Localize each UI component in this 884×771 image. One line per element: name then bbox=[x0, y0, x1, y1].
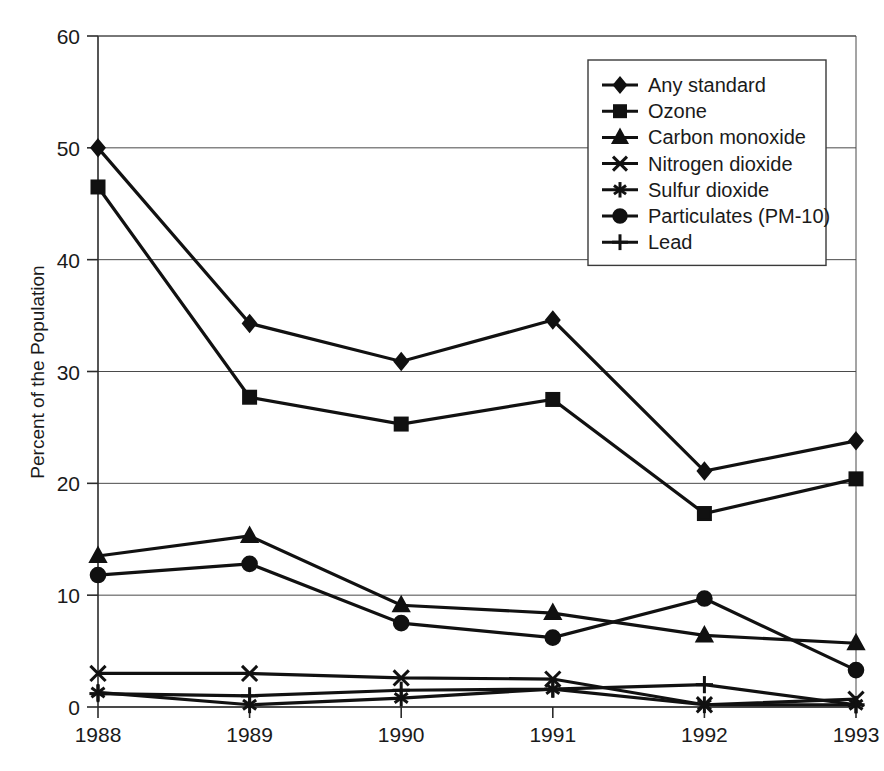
y-axis-title: Percent of the Population bbox=[27, 265, 48, 478]
y-tick-label: 50 bbox=[57, 137, 80, 160]
chart-canvas: 0102030405060 198819891990199119921993 P… bbox=[0, 0, 884, 771]
marker-square bbox=[395, 418, 408, 431]
marker-circle bbox=[394, 616, 408, 630]
series-path bbox=[98, 564, 856, 670]
y-tick-label: 40 bbox=[57, 249, 80, 272]
x-tick-label: 1989 bbox=[226, 723, 273, 746]
series-particulates-pm-10 bbox=[91, 557, 863, 678]
y-axis-ticks: 0102030405060 bbox=[57, 25, 98, 719]
marker-square bbox=[698, 507, 711, 520]
legend-item-label: Sulfur dioxide bbox=[648, 179, 769, 201]
legend-item-label: Lead bbox=[648, 231, 693, 253]
chart-legend[interactable]: Any standardOzoneCarbon monoxideNitrogen… bbox=[588, 60, 830, 265]
series-path bbox=[98, 536, 856, 643]
y-axis-title-text: Percent of the Population bbox=[27, 265, 48, 478]
x-tick-label: 1993 bbox=[833, 723, 880, 746]
marker-square bbox=[850, 472, 863, 485]
marker-plus bbox=[696, 676, 713, 693]
marker-circle bbox=[849, 663, 863, 677]
marker-circle bbox=[546, 630, 560, 644]
marker-diamond bbox=[849, 433, 862, 449]
y-tick-label: 20 bbox=[57, 472, 80, 495]
y-tick-label: 10 bbox=[57, 584, 80, 607]
marker-square bbox=[614, 105, 626, 117]
y-tick-label: 30 bbox=[57, 361, 80, 384]
x-axis-ticks: 198819891990199119921993 bbox=[75, 707, 880, 746]
marker-square bbox=[92, 181, 105, 194]
y-tick-label: 0 bbox=[68, 696, 80, 719]
legend-item-label: Any standard bbox=[648, 74, 766, 96]
marker-circle bbox=[697, 591, 711, 605]
legend-item-label: Nitrogen dioxide bbox=[648, 153, 793, 175]
marker-square bbox=[243, 391, 256, 404]
marker-circle bbox=[91, 568, 105, 582]
line-chart: 0102030405060 198819891990199119921993 P… bbox=[0, 0, 884, 771]
x-tick-label: 1990 bbox=[378, 723, 425, 746]
legend-item-label: Ozone bbox=[648, 100, 707, 122]
marker-circle bbox=[613, 209, 626, 222]
marker-triangle bbox=[242, 528, 258, 542]
x-tick-label: 1991 bbox=[529, 723, 576, 746]
legend-item-label: Particulates (PM-10) bbox=[648, 205, 830, 227]
legend-item-label: Carbon monoxide bbox=[648, 126, 806, 148]
marker-square bbox=[546, 393, 559, 406]
series-sulfur-dioxide bbox=[91, 681, 862, 713]
marker-diamond bbox=[395, 353, 408, 369]
marker-circle bbox=[242, 557, 256, 571]
x-tick-label: 1992 bbox=[681, 723, 728, 746]
x-tick-label: 1988 bbox=[75, 723, 122, 746]
y-tick-label: 60 bbox=[57, 25, 80, 48]
